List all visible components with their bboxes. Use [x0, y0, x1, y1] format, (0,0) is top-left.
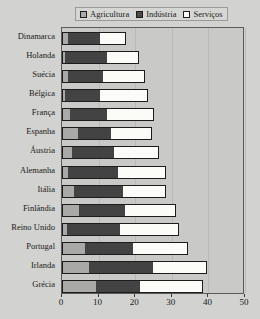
bar-segment-agricultura	[63, 147, 72, 158]
plot-area	[61, 27, 244, 294]
bar-segment-indústria	[65, 52, 107, 63]
bar-segment-serviços	[118, 167, 166, 178]
y-axis-label: Grécia	[32, 280, 55, 289]
bar-segment-serviços	[103, 71, 143, 82]
chart-row	[62, 104, 245, 123]
x-axis-tick-label: 40	[203, 298, 212, 307]
y-axis-label: Irlanda	[31, 261, 55, 270]
bar-segment-agricultura	[63, 128, 78, 139]
stacked-bar[interactable]	[62, 70, 145, 83]
chart-row	[62, 181, 245, 200]
x-axis-tick-label: 20	[130, 298, 139, 307]
stacked-bar[interactable]	[62, 146, 159, 159]
chart-row	[62, 200, 245, 219]
x-axis-tick-label: 10	[93, 298, 102, 307]
bar-segment-indústria	[78, 128, 111, 139]
bar-segment-indústria	[96, 281, 140, 292]
bar-segment-serviços	[120, 224, 179, 235]
gridline	[245, 28, 246, 293]
chart-row	[62, 47, 245, 66]
bar-segment-indústria	[79, 205, 125, 216]
chart-row	[62, 219, 245, 238]
y-axis-label: Finlândia	[23, 204, 55, 213]
x-axis-tick-labels: 01020304050	[0, 298, 260, 312]
chart-row	[62, 123, 245, 142]
bar-segment-indústria	[74, 186, 123, 197]
bar-rows	[62, 28, 245, 295]
bar-segment-serviços	[133, 243, 188, 254]
legend-item-label: Indústria	[146, 10, 176, 19]
bar-segment-serviços	[140, 281, 202, 292]
bar-segment-serviços	[125, 205, 174, 216]
legend-item-label: Agricultura	[90, 10, 129, 19]
y-axis-label: Alemanha	[20, 166, 55, 175]
bar-segment-serviços	[111, 128, 151, 139]
y-axis-label: Bélgica	[29, 89, 55, 98]
chart-row	[62, 257, 245, 276]
legend-item: Agricultura	[80, 10, 129, 19]
stacked-bar[interactable]	[62, 127, 152, 140]
bar-segment-agricultura	[63, 281, 96, 292]
bar-segment-serviços	[114, 147, 158, 158]
y-axis-label: Áustria	[30, 146, 55, 155]
y-axis-label: Espanha	[26, 127, 55, 136]
bar-segment-agricultura	[63, 186, 74, 197]
square-swatch-icon	[183, 11, 190, 18]
y-axis-label: Dinamarca	[18, 32, 55, 41]
x-axis-tick-label: 0	[59, 298, 64, 307]
legend-item: Serviços	[183, 10, 222, 19]
bar-segment-indústria	[67, 224, 120, 235]
bar-segment-agricultura	[63, 243, 85, 254]
bar-segment-indústria	[70, 109, 107, 120]
chart-row	[62, 85, 245, 104]
bar-segment-indústria	[89, 262, 153, 273]
bar-segment-serviços	[107, 109, 153, 120]
stacked-bar[interactable]	[62, 166, 166, 179]
bar-segment-serviços	[100, 33, 126, 44]
x-axis-tick-label: 30	[166, 298, 175, 307]
square-swatch-icon	[136, 11, 143, 18]
y-axis-category-labels: DinamarcaHolandaSuéciaBélgicaFrançaEspan…	[0, 27, 58, 294]
chart-row	[62, 28, 245, 47]
bar-segment-indústria	[68, 71, 103, 82]
bar-segment-serviços	[100, 90, 148, 101]
y-axis-label: Holanda	[26, 51, 55, 60]
chart-row	[62, 162, 245, 181]
chart-row	[62, 276, 245, 295]
bar-segment-indústria	[65, 90, 100, 101]
y-axis-label: França	[32, 108, 55, 117]
stacked-bar[interactable]	[62, 185, 166, 198]
bar-segment-indústria	[85, 243, 133, 254]
y-axis-label: Suécia	[32, 70, 55, 79]
bar-segment-indústria	[68, 167, 117, 178]
bar-segment-serviços	[153, 262, 206, 273]
y-axis-label: Portugal	[26, 242, 55, 251]
chart-row	[62, 142, 245, 161]
legend-item: Indústria	[136, 10, 176, 19]
stacked-bar-chart: AgriculturaIndústriaServiços DinamarcaHo…	[0, 0, 260, 319]
stacked-bar[interactable]	[62, 108, 154, 121]
stacked-bar[interactable]	[62, 280, 203, 293]
stacked-bar[interactable]	[62, 32, 126, 45]
chart-legend: AgriculturaIndústriaServiços	[75, 7, 228, 21]
stacked-bar[interactable]	[62, 89, 148, 102]
bar-segment-indústria	[72, 147, 114, 158]
bar-segment-agricultura	[63, 262, 89, 273]
stacked-bar[interactable]	[62, 242, 188, 255]
stacked-bar[interactable]	[62, 204, 176, 217]
square-swatch-icon	[80, 11, 87, 18]
bar-segment-serviços	[123, 186, 165, 197]
bar-segment-indústria	[68, 33, 99, 44]
bar-segment-agricultura	[63, 205, 79, 216]
y-axis-label: Itália	[38, 185, 55, 194]
x-axis-tick-label: 50	[240, 298, 249, 307]
stacked-bar[interactable]	[62, 261, 207, 274]
bar-segment-agricultura	[63, 109, 70, 120]
chart-row	[62, 238, 245, 257]
legend-item-label: Serviços	[193, 10, 222, 19]
bar-segment-serviços	[107, 52, 138, 63]
stacked-bar[interactable]	[62, 223, 179, 236]
y-axis-label: Reino Unido	[11, 223, 55, 232]
chart-row	[62, 66, 245, 85]
stacked-bar[interactable]	[62, 51, 139, 64]
